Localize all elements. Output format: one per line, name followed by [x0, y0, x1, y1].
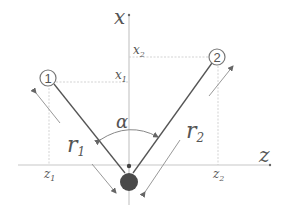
point-2: 2 [209, 49, 225, 65]
axes [18, 16, 270, 205]
r2-label: r2 [186, 118, 204, 145]
r2-dimension-lower [145, 140, 180, 192]
r2-dimension-upper [209, 66, 233, 96]
r1-label: r1 [67, 132, 85, 159]
angle-label: α [116, 111, 128, 132]
z2-label: z2 [212, 167, 224, 183]
point-1: 1 [40, 70, 56, 86]
z-axis-label: z [258, 143, 270, 167]
x1-label: x1 [115, 68, 127, 84]
point-1-label: 1 [44, 71, 51, 86]
pivot-dot [127, 164, 131, 168]
two-arm-pendulum-diagram: 1 2 x z x2 x1 z1 z2 r1 r2 α [0, 0, 282, 211]
x-axis-label: x [114, 5, 125, 29]
r1-dimension-lower [92, 164, 116, 193]
rod-1 [54, 84, 125, 173]
ball [120, 173, 138, 191]
x2-label: x2 [133, 43, 145, 59]
z1-label: z1 [43, 167, 55, 183]
x-axis-arrow-icon [128, 14, 130, 16]
rod-2 [133, 63, 212, 173]
point-2-label: 2 [213, 50, 220, 65]
r1-dimension-upper [36, 93, 60, 123]
